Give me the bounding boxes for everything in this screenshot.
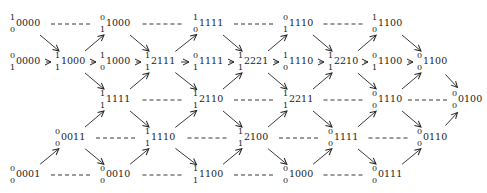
ar-quiver-diagram: 1000000100000000011110000000110110001010… (0, 0, 487, 193)
arrow-icon (358, 149, 376, 164)
node-bottom-index: 0 (10, 26, 15, 34)
node-bottom-index: 0 (372, 26, 377, 34)
node-bottom-index: 1 (193, 102, 198, 110)
node-top-index: 1 (283, 90, 288, 98)
node-bottom-index: 0 (100, 64, 105, 72)
node-dimension-vector: 1000 (106, 56, 130, 66)
arrow-icon (268, 73, 287, 89)
node-top-index: 0 (328, 128, 333, 136)
node-top-index: 1 (193, 14, 198, 22)
arrow-icon (358, 35, 376, 51)
arrow-icon (313, 111, 332, 127)
node-bottom-index: 1 (193, 64, 198, 72)
node-bottom-index: 0 (100, 177, 105, 185)
arrow-icon (313, 73, 332, 89)
node-dimension-vector: 1110 (289, 18, 313, 28)
arrow-icon (85, 73, 104, 89)
arrow-icon (268, 35, 287, 51)
node-dimension-vector: 1110 (289, 56, 313, 66)
node-top-index: 0 (10, 165, 15, 173)
node-dimension-vector: 0000 (16, 18, 40, 28)
node-bottom-index: 1 (145, 64, 150, 72)
node-top-index: 1 (372, 14, 377, 22)
node-dimension-vector: 1100 (378, 18, 402, 28)
arrow-icon (85, 35, 104, 51)
arrow-icon (223, 35, 242, 51)
node-bottom-index: 0 (452, 102, 457, 110)
node-dimension-vector: 1111 (106, 94, 130, 104)
node-dimension-vector: 1111 (199, 18, 223, 28)
node-bottom-index: 0 (417, 140, 422, 148)
node-bottom-index: 1 (10, 64, 15, 72)
node-dimension-vector: 0110 (423, 132, 447, 142)
node-top-index: 1 (193, 90, 198, 98)
node-top-index: 0 (55, 128, 60, 136)
node-bottom-index: 1 (283, 26, 288, 34)
node-dimension-vector: 2210 (334, 56, 358, 66)
node-dimension-vector: 0010 (106, 169, 130, 179)
node-top-index: 1 (283, 52, 288, 60)
node-bottom-index: 1 (328, 64, 333, 72)
arrow-icon (223, 73, 242, 89)
node-dimension-vector: 1100 (423, 56, 447, 66)
node-bottom-index: 1 (100, 26, 105, 34)
node-bottom-index: 1 (283, 102, 288, 110)
node-dimension-vector: 2211 (289, 94, 313, 104)
arrow-icon (40, 149, 59, 164)
node-bottom-index: 0 (283, 64, 288, 72)
node-bottom-index: 0 (193, 26, 198, 34)
arrow-icon (40, 35, 59, 51)
node-dimension-vector: 1111 (334, 132, 358, 142)
node-dimension-vector: 1100 (378, 56, 402, 66)
node-top-index: 0 (452, 90, 457, 98)
arrow-icon (130, 35, 149, 51)
node-dimension-vector: 0111 (378, 169, 402, 179)
node-top-index: 0 (417, 128, 422, 136)
arrow-icon (446, 113, 458, 126)
node-top-index: 1 (10, 14, 15, 22)
node-top-index: 0 (283, 165, 288, 173)
arrow-icon (358, 111, 376, 127)
node-dimension-vector: 0011 (61, 132, 85, 142)
node-dimension-vector: 2111 (151, 56, 175, 66)
node-dimension-vector: 1000 (289, 169, 313, 179)
node-top-index: 1 (100, 90, 105, 98)
node-top-index: 1 (55, 52, 60, 60)
arrow-icon (85, 149, 104, 164)
node-dimension-vector: 0100 (458, 94, 482, 104)
arrow-icon (175, 148, 196, 164)
node-bottom-index: 0 (10, 177, 15, 185)
node-top-index: 0 (372, 165, 377, 173)
node-top-index: 0 (372, 52, 377, 60)
node-dimension-vector: 2221 (244, 56, 268, 66)
arrow-icon (223, 111, 242, 127)
node-top-index: 1 (145, 128, 150, 136)
node-bottom-index: 0 (372, 177, 377, 185)
arrow-icon (402, 35, 421, 51)
node-top-index: 1 (193, 165, 198, 173)
node-top-index: 0 (193, 52, 198, 60)
node-dimension-vector: 0001 (16, 169, 40, 179)
arrow-icon (175, 35, 196, 52)
node-dimension-vector: 1110 (378, 94, 402, 104)
node-bottom-index: 1 (238, 140, 243, 148)
arrow-icon (130, 73, 149, 89)
node-dimension-vector: 1111 (199, 56, 223, 66)
node-bottom-index: 1 (145, 140, 150, 148)
arrow-icon (313, 149, 332, 164)
arrow-icon (402, 111, 421, 127)
arrow-icon (268, 111, 287, 127)
quiver-edges (0, 0, 487, 193)
node-top-index: 1 (145, 52, 150, 60)
node-top-index: 0 (372, 90, 377, 98)
node-top-index: 1 (238, 52, 243, 60)
node-bottom-index: 1 (100, 102, 105, 110)
arrow-icon (175, 73, 196, 90)
node-bottom-index: 1 (55, 64, 60, 72)
node-dimension-vector: 2100 (244, 132, 268, 142)
arrow-icon (402, 73, 421, 89)
arrow-icon (130, 149, 149, 164)
node-bottom-index: 0 (328, 140, 333, 148)
node-bottom-index: 1 (193, 177, 198, 185)
node-top-index: 1 (100, 52, 105, 60)
